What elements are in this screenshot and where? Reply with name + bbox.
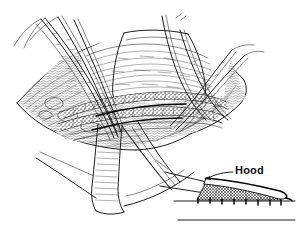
illustration-root: Hood — [0, 0, 303, 234]
hood-label: Hood — [235, 164, 264, 176]
illustration-canvas: Hood — [0, 0, 303, 234]
